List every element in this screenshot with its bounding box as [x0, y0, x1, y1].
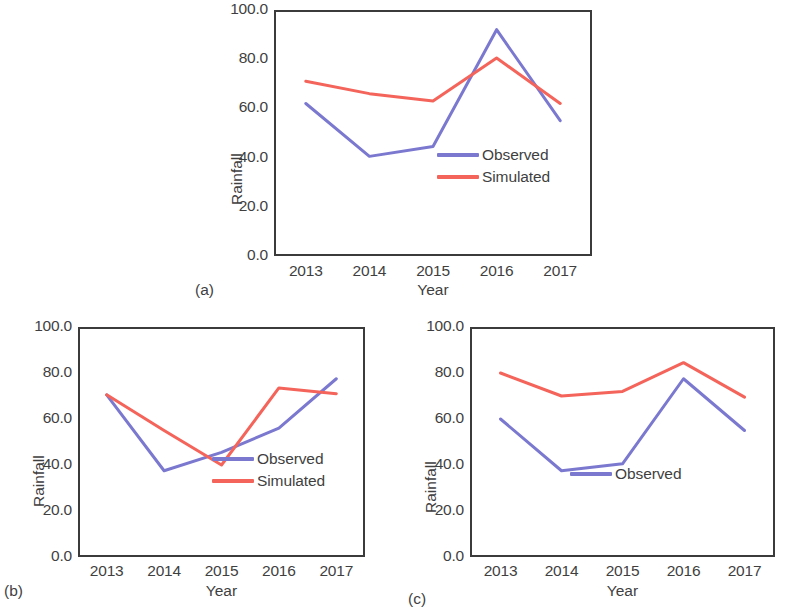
legend-item: Observed — [570, 463, 681, 485]
panel-label-b: (b) — [4, 582, 23, 600]
y-axis-title-a: Rainfall — [228, 153, 246, 205]
legend-b: ObservedSimulated — [212, 448, 325, 492]
y-tick-label: 0.0 — [247, 246, 268, 264]
y-tick-label: 80.0 — [43, 363, 72, 381]
chart-panel-a: 0.020.040.060.080.0100.0 201320142015201… — [0, 0, 620, 305]
x-tick-label: 2014 — [135, 562, 192, 580]
x-tick-label: 2013 — [274, 262, 338, 280]
series-line-simulated — [501, 363, 745, 398]
x-tick-label: 2016 — [653, 562, 714, 580]
x-tick-label: 2015 — [193, 562, 250, 580]
x-axis-title-b: Year — [78, 582, 365, 600]
legend-swatch-line-icon — [570, 472, 612, 475]
x-tick-label: 2016 — [465, 262, 529, 280]
y-axis-title-b: Rainfall — [30, 455, 48, 507]
x-tick-label: 2017 — [528, 262, 592, 280]
y-tick-label: 100.0 — [230, 0, 268, 18]
x-tick-label: 2013 — [470, 562, 531, 580]
x-tick-label: 2017 — [714, 562, 775, 580]
chart-panel-c: 0.020.040.060.080.0100.0 201320142015201… — [400, 305, 791, 614]
x-axis-title-a: Year — [274, 281, 592, 299]
legend-item: Simulated — [212, 470, 325, 492]
x-tick-label: 2014 — [338, 262, 402, 280]
x-axis-title-c: Year — [470, 582, 775, 600]
y-tick-label: 80.0 — [239, 49, 268, 67]
legend-item: Simulated — [437, 166, 550, 188]
series-line-observed — [306, 30, 560, 157]
chart-panel-b: 0.020.040.060.080.0100.0 201320142015201… — [0, 305, 400, 614]
y-tick-label: 60.0 — [239, 98, 268, 116]
x-tick-label: 2015 — [592, 562, 653, 580]
legend-label: Observed — [482, 146, 548, 164]
legend-swatch-line-icon — [212, 457, 254, 460]
legend-label: Observed — [615, 465, 681, 483]
legend-swatch-line-icon — [437, 153, 479, 156]
y-tick-label: 100.0 — [34, 317, 72, 335]
legend-label: Observed — [257, 450, 323, 468]
legend-label: Simulated — [257, 472, 325, 490]
panel-label-a: (a) — [195, 281, 214, 299]
y-tick-label: 100.0 — [426, 317, 464, 335]
y-tick-label: 0.0 — [443, 547, 464, 565]
x-tick-label: 2015 — [401, 262, 465, 280]
y-tick-label: 60.0 — [43, 409, 72, 427]
legend-item: Observed — [437, 144, 550, 166]
x-tick-label: 2014 — [531, 562, 592, 580]
y-tick-label: 60.0 — [435, 409, 464, 427]
legend-a: ObservedSimulated — [437, 144, 550, 188]
legend-label: Simulated — [482, 168, 550, 186]
x-tick-label: 2017 — [308, 562, 365, 580]
y-tick-label: 80.0 — [435, 363, 464, 381]
x-tick-label: 2013 — [78, 562, 135, 580]
y-axis-title-c: Rainfall — [422, 461, 440, 513]
legend-c: Observed — [570, 463, 681, 485]
y-tick-label: 0.0 — [51, 547, 72, 565]
legend-swatch-line-icon — [437, 175, 479, 178]
x-tick-label: 2016 — [250, 562, 307, 580]
panel-label-c: (c) — [408, 590, 426, 608]
legend-swatch-line-icon — [212, 479, 254, 482]
legend-item: Observed — [212, 448, 325, 470]
